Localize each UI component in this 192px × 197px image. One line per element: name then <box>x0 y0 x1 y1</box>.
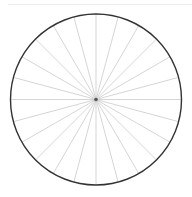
spoke-line <box>96 17 118 100</box>
spoke-line <box>53 25 96 99</box>
spoke-line <box>13 77 96 99</box>
radial-wheel-diagram <box>0 0 192 197</box>
spoke-line <box>22 100 96 143</box>
spoke-line <box>36 100 96 160</box>
spoke-line <box>96 25 139 99</box>
spoke-line <box>96 100 179 122</box>
spoke-line <box>22 57 96 100</box>
spoke-line <box>36 39 96 99</box>
spoke-line <box>96 57 170 100</box>
spoke-line <box>96 100 156 160</box>
spoke-line <box>74 17 96 100</box>
spoke-line <box>53 100 96 174</box>
spoke-line <box>96 100 118 183</box>
spoke-line <box>13 100 96 122</box>
spoke-line <box>96 39 156 99</box>
center-hub <box>94 98 98 102</box>
spoke-line <box>96 77 179 99</box>
spoke-line <box>96 100 170 143</box>
spoke-line <box>74 100 96 183</box>
spoke-line <box>96 100 139 174</box>
